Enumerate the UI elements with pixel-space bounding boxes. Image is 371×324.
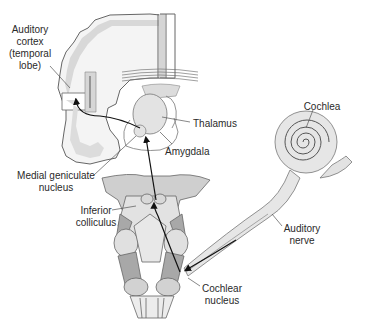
label-medial-geniculate-line1: Medial geniculate xyxy=(17,170,95,181)
label-amygdala: Amygdala xyxy=(165,146,210,157)
label-medial-geniculate: Medial geniculate nucleus xyxy=(17,170,95,193)
label-auditory-cortex: Auditory cortex (temporal lobe) xyxy=(9,24,51,71)
label-auditory-cortex-line3: (temporal xyxy=(9,48,51,59)
label-auditory-cortex-line4: lobe) xyxy=(19,60,41,71)
label-thalamus: Thalamus xyxy=(193,118,237,129)
label-auditory-cortex-line1: Auditory xyxy=(12,24,49,35)
cochlea-group xyxy=(184,111,352,276)
brainstem xyxy=(102,174,210,318)
medial-geniculate-shape xyxy=(134,125,146,137)
label-auditory-nerve: Auditory nerve xyxy=(284,223,321,246)
label-auditory-cortex-line2: cortex xyxy=(16,36,43,47)
label-cochlear-nucleus-line2: nucleus xyxy=(205,295,239,306)
label-inferior-colliculus-line1: Inferior xyxy=(80,205,112,216)
label-medial-geniculate-line2: nucleus xyxy=(39,182,73,193)
leader-cochlear-nucleus xyxy=(188,278,200,286)
label-inferior-colliculus-line2: colliculus xyxy=(76,217,117,228)
label-cochlear-nucleus: Cochlear nucleus xyxy=(202,283,243,306)
pathway-nerve-to-cochlear-nucleus xyxy=(186,240,236,270)
leader-auditory-nerve xyxy=(272,214,282,226)
label-cochlea: Cochlea xyxy=(304,101,341,112)
label-auditory-nerve-line2: nerve xyxy=(289,235,314,246)
auditory-pathway-diagram: Auditory cortex (temporal lobe) Thalamus… xyxy=(0,0,371,324)
label-inferior-colliculus: Inferior colliculus xyxy=(76,205,117,228)
label-cochlear-nucleus-line1: Cochlear xyxy=(202,283,243,294)
label-auditory-nerve-line1: Auditory xyxy=(284,223,321,234)
